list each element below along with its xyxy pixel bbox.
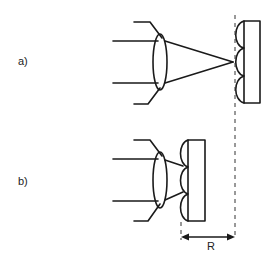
dimension-arrow-r [181,234,235,241]
panel-b [113,140,205,221]
lens-a [153,34,167,90]
lens-mount-bottom-a [134,88,160,104]
focus-ray-bottom-b [165,192,183,200]
focus-ray-top-a [165,41,233,62]
focus-ray-bottom-a [165,62,233,83]
lenslet-array-b [181,140,189,221]
plate-a [244,21,260,103]
focus-ray-top-b [165,160,183,166]
plate-b [188,140,205,221]
lenslet-array-a [236,21,244,103]
panel-a [113,21,260,104]
optical-diagram [0,0,279,260]
lens-mount-bottom-b [134,204,160,221]
